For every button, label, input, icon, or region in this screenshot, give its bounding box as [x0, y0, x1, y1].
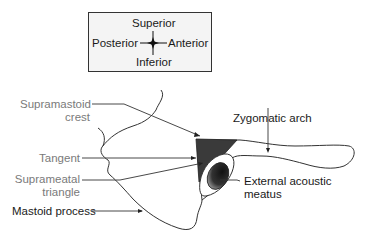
label-zygomatic-arch: Zygomatic arch	[233, 112, 312, 125]
squamous-edge	[98, 128, 104, 146]
label-tangent: Tangent	[20, 152, 80, 165]
label-suprameatal-triangle-line2: triangle	[10, 186, 80, 199]
label-supramastoid-crest-line1: Supramastoid	[20, 98, 90, 111]
label-mastoid-process: Mastoid process	[12, 205, 96, 218]
label-external-acoustic-meatus-line1: External acoustic	[244, 175, 332, 188]
compass-cross-icon	[140, 31, 167, 55]
anatomy-diagram: Superior Inferior Posterior Anterior	[0, 0, 368, 244]
label-suprameatal-triangle-line1: Suprameatal	[10, 173, 80, 186]
label-external-acoustic-meatus-line2: meatus	[244, 188, 282, 201]
label-supramastoid-crest-line2: crest	[20, 111, 90, 124]
